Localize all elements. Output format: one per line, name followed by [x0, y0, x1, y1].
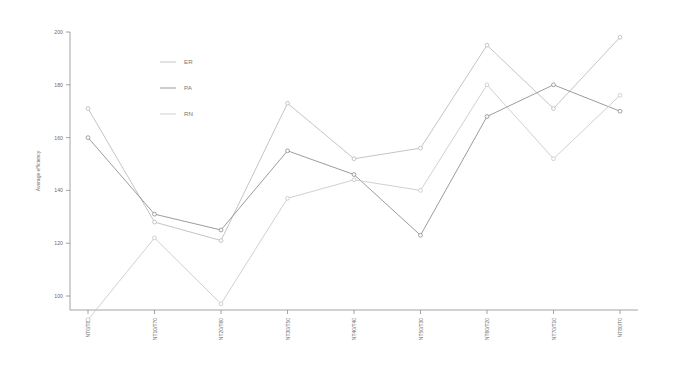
data-point-rn-2 [219, 302, 223, 306]
y-tick-label: 100 [54, 293, 63, 299]
y-tick-label: 160 [54, 135, 63, 141]
legend-label-pa: PA [184, 84, 193, 91]
data-point-rn-6 [485, 83, 489, 87]
data-point-er-8 [618, 35, 622, 39]
data-point-er-7 [552, 107, 556, 111]
data-point-er-3 [286, 101, 290, 105]
line-chart: 100120140160180200Average efficiencyNT0/… [0, 0, 680, 367]
series-line-rn [88, 85, 620, 320]
data-point-er-2 [219, 239, 223, 243]
data-point-rn-1 [153, 236, 157, 240]
data-point-rn-4 [352, 178, 356, 182]
data-point-pa-7 [552, 83, 556, 87]
data-point-pa-3 [286, 149, 290, 153]
data-point-er-0 [86, 107, 90, 111]
chart-canvas: 100120140160180200Average efficiencyNT0/… [0, 0, 680, 367]
data-point-rn-0 [86, 318, 90, 322]
data-point-pa-0 [86, 136, 90, 140]
data-point-er-4 [352, 157, 356, 161]
x-tick-label: NT70/T10 [551, 318, 557, 340]
x-tick-label: NT80/T0 [617, 318, 623, 338]
data-point-pa-2 [219, 228, 223, 232]
data-point-er-5 [419, 146, 423, 150]
y-tick-label: 120 [54, 240, 63, 246]
data-point-pa-1 [153, 212, 157, 216]
y-tick-label: 140 [54, 187, 63, 193]
data-point-er-6 [485, 43, 489, 47]
data-point-pa-5 [419, 233, 423, 237]
x-tick-label: NT60/T20 [484, 318, 490, 340]
x-tick-label: NT40/T40 [351, 318, 357, 340]
legend-label-er: ER [184, 58, 193, 65]
data-point-rn-8 [618, 93, 622, 97]
data-point-pa-4 [352, 173, 356, 177]
data-point-er-1 [153, 220, 157, 224]
data-point-pa-6 [485, 115, 489, 119]
series-line-er [88, 37, 620, 240]
x-tick-label: NT30/T50 [285, 318, 291, 340]
data-point-pa-8 [618, 109, 622, 113]
x-tick-label: NT50/T30 [418, 318, 424, 340]
x-tick-label: NT20/T60 [218, 318, 224, 340]
y-axis-title: Average efficiency [35, 150, 41, 191]
y-tick-label: 180 [54, 82, 63, 88]
legend-label-rn: RN [184, 110, 193, 117]
data-point-rn-5 [419, 189, 423, 193]
data-point-rn-7 [552, 157, 556, 161]
y-tick-label: 200 [54, 29, 63, 35]
x-tick-label: NT10/T70 [152, 318, 158, 340]
data-point-rn-3 [286, 196, 290, 200]
